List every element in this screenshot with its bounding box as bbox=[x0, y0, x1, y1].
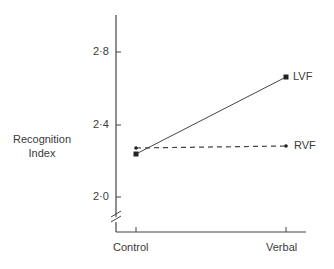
series-rvf-line bbox=[136, 146, 286, 148]
series-lvf-line bbox=[136, 77, 286, 154]
series-label-lvf: LVF bbox=[293, 70, 312, 82]
lvf-marker-control bbox=[134, 152, 139, 157]
y-axis-label-line2: Index bbox=[4, 146, 80, 160]
series-label-rvf: RVF bbox=[294, 139, 316, 151]
y-tick-label-2-0: 2·0 bbox=[93, 190, 109, 202]
rvf-marker-control bbox=[134, 146, 138, 150]
x-category-control: Control bbox=[113, 241, 148, 253]
lvf-marker-verbal bbox=[284, 75, 289, 80]
rvf-marker-verbal bbox=[284, 144, 288, 148]
y-tick-label-2-8: 2·8 bbox=[93, 45, 109, 57]
y-tick-label-2-4: 2·4 bbox=[93, 118, 109, 130]
y-axis-label: Recognition Index bbox=[4, 132, 80, 160]
x-category-verbal: Verbal bbox=[266, 241, 297, 253]
y-axis-label-line1: Recognition bbox=[4, 132, 80, 146]
